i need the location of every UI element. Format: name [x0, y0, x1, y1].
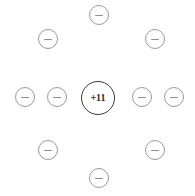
- electron-right-outer: [164, 87, 184, 107]
- electron-top: [89, 5, 109, 25]
- minus-icon: [53, 97, 61, 98]
- minus-icon: [138, 97, 146, 98]
- electron-bottom-right: [145, 140, 165, 160]
- electron-bottom: [89, 168, 109, 188]
- minus-icon: [151, 39, 159, 40]
- minus-icon: [170, 97, 178, 98]
- electron-left-outer: [15, 87, 35, 107]
- nucleus-charge-label: +11: [90, 93, 105, 103]
- nucleus: +11: [81, 81, 115, 115]
- minus-icon: [44, 39, 52, 40]
- minus-icon: [95, 178, 103, 179]
- minus-icon: [44, 150, 52, 151]
- minus-icon: [95, 15, 103, 16]
- minus-icon: [21, 97, 29, 98]
- electron-top-left: [38, 29, 58, 49]
- electron-bottom-left: [38, 140, 58, 160]
- minus-icon: [151, 150, 159, 151]
- electron-right-inner: [132, 87, 152, 107]
- atom-diagram: +11: [0, 0, 195, 196]
- electron-left-inner: [47, 87, 67, 107]
- electron-top-right: [145, 29, 165, 49]
